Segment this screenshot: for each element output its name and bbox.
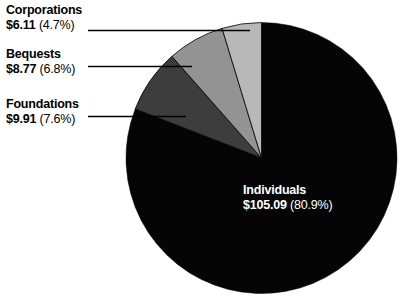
callout-corporations-amount: $6.11 bbox=[6, 18, 36, 32]
callout-foundations-values: $9.91 (7.6%) bbox=[6, 112, 79, 126]
label-individuals-category: Individuals bbox=[243, 183, 332, 197]
callout-bequests-category: Bequests bbox=[6, 47, 75, 61]
label-individuals-values: $105.09 (80.9%) bbox=[243, 198, 332, 212]
callout-corporations-percent: (4.7%) bbox=[39, 18, 75, 32]
callout-corporations-category: Corporations bbox=[6, 3, 82, 17]
callout-bequests-percent: (6.8%) bbox=[40, 62, 76, 76]
label-individuals: Individuals $105.09 (80.9%) bbox=[243, 183, 332, 212]
pie-chart: Corporations $6.11 (4.7%) Bequests $8.77… bbox=[0, 0, 415, 302]
callout-bequests-values: $8.77 (6.8%) bbox=[6, 62, 75, 76]
callout-bequests: Bequests $8.77 (6.8%) bbox=[6, 47, 75, 76]
pie-chart-svg bbox=[0, 0, 415, 302]
callout-corporations: Corporations $6.11 (4.7%) bbox=[6, 3, 82, 32]
callout-foundations-category: Foundations bbox=[6, 97, 79, 111]
label-individuals-percent: (80.9%) bbox=[290, 198, 332, 212]
callout-bequests-amount: $8.77 bbox=[6, 62, 36, 76]
label-individuals-amount: $105.09 bbox=[243, 198, 287, 212]
callout-foundations: Foundations $9.91 (7.6%) bbox=[6, 97, 79, 126]
callout-foundations-percent: (7.6%) bbox=[40, 112, 76, 126]
callout-corporations-values: $6.11 (4.7%) bbox=[6, 18, 82, 32]
callout-foundations-amount: $9.91 bbox=[6, 112, 36, 126]
